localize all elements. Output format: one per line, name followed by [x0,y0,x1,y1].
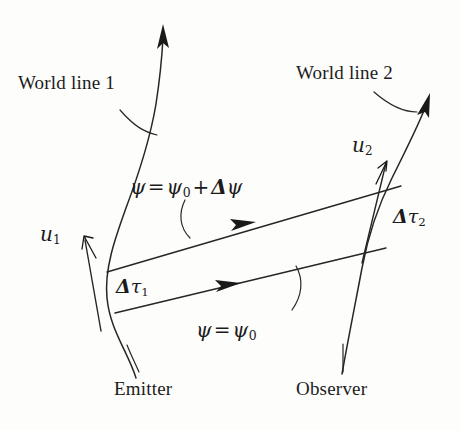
psi-upper-delta-symbol: ψ [227,175,243,199]
emitter-label: Emitter [114,378,172,400]
psi-upper-plus: + [191,175,212,199]
delta-tau-2-delta: Δ [393,205,408,227]
u2-vector-shaft [362,163,386,263]
u2-vector-group [362,161,387,263]
null-ray-lower-arrowhead [215,280,241,292]
world-line-1-leader [120,110,157,135]
delta-tau-2-sub: 2 [418,215,426,229]
u1-vector-arrowhead [82,236,96,258]
u2-symbol: u [352,133,365,157]
psi-upper-rhs-symbol: ψ [166,175,182,199]
world-line-2-label: World line 2 [296,62,393,84]
psi-upper-equation: ψ=ψ0+Δψ [130,175,243,200]
delta-tau-1-delta: Δ [116,275,131,297]
observer-label: Observer [296,378,367,400]
u1-vector-group [82,236,101,331]
delta-tau-1-label: Δτ1 [116,275,149,299]
world-line-1-label: World line 1 [18,72,115,94]
u2-sub: 2 [365,144,373,158]
psi-upper-delta: Δ [211,175,227,199]
world-line-1-curve [107,38,163,378]
psi-lower-rhs-sub: 0 [248,328,256,343]
psi-upper-leader [181,200,190,238]
u2-label: u2 [352,133,373,158]
u1-sub: 1 [53,233,61,247]
spacetime-diagram-figure: World line 1 World line 2 ψ=ψ0+Δψ ψ=ψ0 u… [0,0,460,430]
psi-upper-equals: = [146,175,167,199]
psi-lower-equation: ψ=ψ0 [196,318,257,343]
psi-lower-equals: = [212,318,233,342]
delta-tau-1-symbol: τ [131,275,142,297]
world-line-2-arrowhead [417,93,430,118]
delta-tau-2-label: Δτ2 [393,205,426,229]
psi-upper-lhs: ψ [130,175,146,199]
delta-tau-1-sub: 1 [141,285,149,299]
psi-lower-leader [292,266,301,310]
psi-lower-lhs: ψ [196,318,212,342]
delta-tau-2-symbol: τ [408,205,419,227]
psi-upper-rhs-sub: 0 [182,185,190,200]
psi-lower-rhs-symbol: ψ [232,318,248,342]
world-line-2-leader [374,92,417,112]
u1-symbol: u [40,222,53,246]
u1-label: u1 [40,222,61,247]
world-line-1-group [107,24,169,378]
